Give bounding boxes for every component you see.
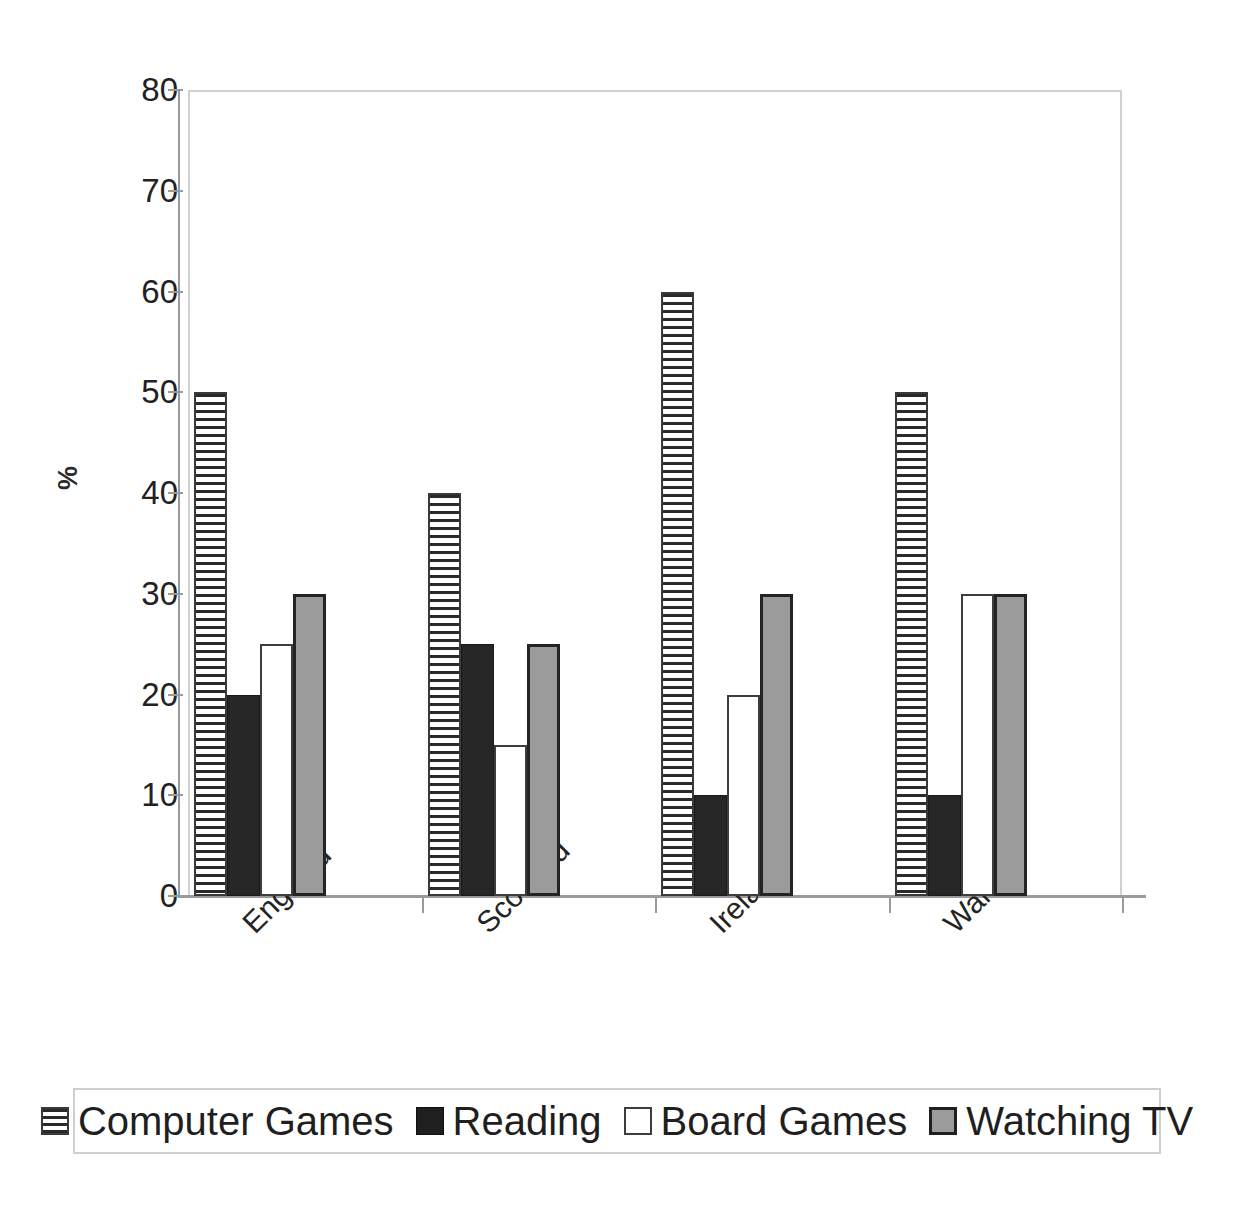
bar (895, 392, 928, 896)
bar (961, 594, 994, 896)
bar (227, 695, 260, 897)
bar (194, 392, 227, 896)
bar (260, 644, 293, 896)
legend-label: Computer Games (78, 1101, 394, 1141)
legend-entry[interactable]: Watching TV (918, 1101, 1204, 1141)
legend-swatch-icon (41, 1107, 69, 1135)
legend-label: Reading (453, 1101, 602, 1141)
chart-legend: Computer GamesReadingBoard GamesWatching… (73, 1088, 1161, 1154)
bar (694, 795, 727, 896)
legend-swatch-icon (624, 1107, 652, 1135)
bar (928, 795, 961, 896)
bar (461, 644, 494, 896)
x-axis-tick-mark (422, 897, 424, 913)
bar (494, 745, 527, 896)
bar (428, 493, 461, 896)
bar (994, 594, 1027, 896)
bar (527, 644, 560, 896)
bar (760, 594, 793, 896)
legend-swatch-icon (929, 1107, 957, 1135)
legend-entry[interactable]: Board Games (613, 1101, 919, 1141)
bar (293, 594, 326, 896)
legend-label: Board Games (661, 1101, 908, 1141)
bars-layer (0, 0, 1234, 1207)
x-axis-tick-mark (889, 897, 891, 913)
legend-swatch-icon (416, 1107, 444, 1135)
x-axis-tick-mark (655, 897, 657, 913)
bar (727, 695, 760, 897)
bar-chart: % 01020304050607080 EnglandScotlandIrela… (0, 0, 1234, 1207)
legend-entry[interactable]: Reading (405, 1101, 613, 1141)
legend-label: Watching TV (966, 1101, 1193, 1141)
legend-entry[interactable]: Computer Games (30, 1101, 405, 1141)
bar (661, 292, 694, 897)
x-axis-tick-mark (1122, 897, 1124, 913)
